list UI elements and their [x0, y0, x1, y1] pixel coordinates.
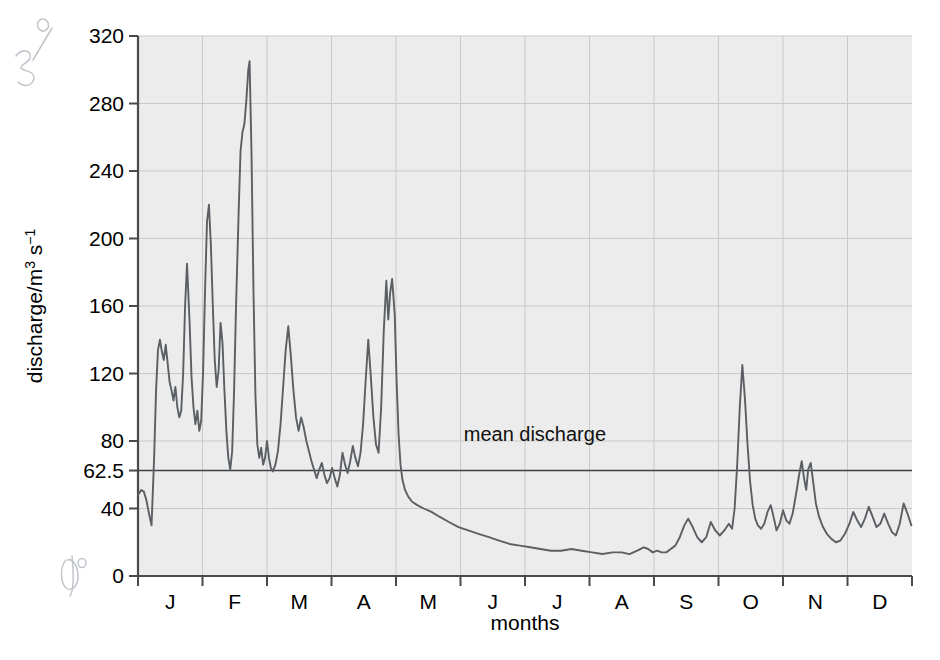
- x-tick-label-6-J: J: [552, 590, 563, 613]
- x-tick-label-1-F: F: [228, 590, 241, 613]
- y-tick-label-240: 240: [89, 159, 124, 182]
- x-tick-label-5-J: J: [488, 590, 499, 613]
- y-tick-label-40: 40: [101, 497, 124, 520]
- svg-text:discharge/m3 s−1: discharge/m3 s−1: [22, 229, 46, 384]
- y-tick-label-120: 120: [89, 362, 124, 385]
- y-tick-label-200: 200: [89, 227, 124, 250]
- y-axis-title-exponent-minus1: −1: [22, 229, 38, 245]
- x-axis-title: months: [491, 611, 560, 634]
- x-tick-label-0-J: J: [165, 590, 176, 613]
- pencil-mark-top-left: [16, 18, 52, 86]
- y-tick-label-62.5: 62.5: [83, 459, 124, 482]
- mean-discharge-label: mean discharge: [464, 423, 606, 445]
- x-tick-label-7-A: A: [615, 590, 629, 613]
- y-axis-title-mid: s: [23, 245, 46, 261]
- y-tick-label-280: 280: [89, 92, 124, 115]
- y-tick-label-160: 160: [89, 294, 124, 317]
- x-axis-ticks: JFMAMJJASOND: [138, 576, 912, 613]
- pencil-mark-bottom-left: [62, 556, 87, 596]
- y-axis-title: discharge/m3 s−1: [22, 229, 46, 384]
- x-tick-label-3-A: A: [357, 590, 371, 613]
- y-tick-label-80: 80: [101, 429, 124, 452]
- x-tick-label-9-O: O: [743, 590, 759, 613]
- y-axis-title-exponent-3: 3: [22, 261, 38, 269]
- x-tick-label-11-D: D: [872, 590, 887, 613]
- hydrograph-figure: 04062.580120160200240280320 JFMAMJJASOND…: [0, 0, 940, 660]
- x-tick-label-8-S: S: [679, 590, 693, 613]
- y-axis-title-base: discharge/m: [23, 269, 46, 383]
- x-tick-label-2-M: M: [291, 590, 309, 613]
- y-tick-label-0: 0: [112, 564, 124, 587]
- x-tick-label-10-N: N: [808, 590, 823, 613]
- y-tick-label-320: 320: [89, 24, 124, 47]
- x-tick-label-4-M: M: [420, 590, 438, 613]
- y-axis-ticks: 04062.580120160200240280320: [83, 24, 138, 587]
- discharge-chart-svg: 04062.580120160200240280320 JFMAMJJASOND…: [0, 0, 940, 660]
